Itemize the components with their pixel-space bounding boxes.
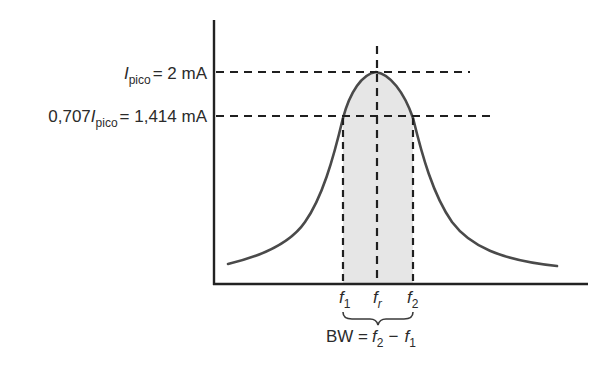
resonance-diagram: Ipico= 2 mA 0,707Ipico= 1,414 mA f1 fr f… [0, 0, 608, 365]
peak-current-label: Ipico= 2 mA [124, 64, 208, 87]
half-power-current-label: 0,707Ipico= 1,414 mA [48, 107, 207, 130]
f2-label: f2 [407, 288, 419, 311]
bandwidth-brace [343, 312, 413, 325]
f1-label: f1 [339, 288, 351, 311]
bandwidth-formula: BW =f2−f1 [326, 327, 416, 350]
fr-label: fr [373, 288, 383, 311]
